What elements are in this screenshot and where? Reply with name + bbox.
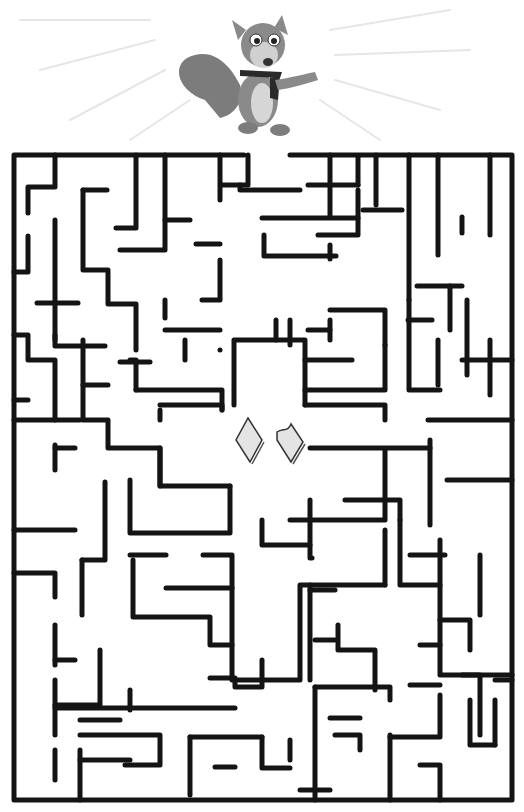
maze-wall-segment (338, 625, 375, 690)
maze-wall-segment (264, 235, 336, 256)
maze-wall-segment (160, 405, 222, 410)
squirrel-arm (275, 72, 318, 90)
maze-wall-segment (318, 190, 358, 235)
nut-whole-icon (236, 418, 264, 464)
maze-wall-segment (440, 540, 480, 735)
maze-wall-segment (133, 560, 232, 645)
maze-wall-segment (83, 190, 136, 350)
maze-wall-segment (335, 735, 360, 750)
maze-wall-segment (234, 340, 305, 405)
squirrel-tail (179, 54, 241, 118)
maze-wall-segment (305, 405, 385, 420)
maze-wall-segment (262, 520, 310, 545)
maze-wall-segment (315, 687, 390, 700)
maze-walls (14, 155, 512, 800)
squirrel-character (179, 15, 318, 136)
nut-bitten-icon (277, 424, 305, 464)
maze-wall-segment (14, 573, 55, 597)
maze-wall-segment (202, 260, 220, 300)
squirrel-foot-left (238, 122, 258, 134)
maze-worksheet (0, 0, 524, 812)
maze-wall-segment (290, 450, 385, 520)
maze-wall-segment (116, 155, 136, 228)
maze-wall-segment (82, 482, 105, 560)
maze-wall-segment (345, 500, 400, 520)
maze-wall-segment (409, 300, 440, 390)
squirrel-mouth (263, 58, 273, 66)
maze-wall-segment (310, 500, 312, 558)
squirrel-pupil-left (254, 38, 260, 44)
maze-wall-segment (440, 620, 470, 650)
squirrel-pupil-right (271, 38, 277, 44)
maze-wall-segment (222, 155, 248, 185)
maze-wall-segment (55, 335, 105, 346)
maze-wall-segment (28, 155, 55, 213)
maze-wall-segment (160, 448, 230, 486)
squirrel-foot-right (270, 124, 290, 136)
maze-wall-segment (305, 345, 385, 390)
maze-wall-segment (390, 695, 440, 737)
maze-wall-segment (262, 737, 290, 768)
maze-wall-segment (330, 310, 385, 345)
maze-wall-segment (120, 155, 165, 250)
squirrel-belly (251, 83, 273, 123)
